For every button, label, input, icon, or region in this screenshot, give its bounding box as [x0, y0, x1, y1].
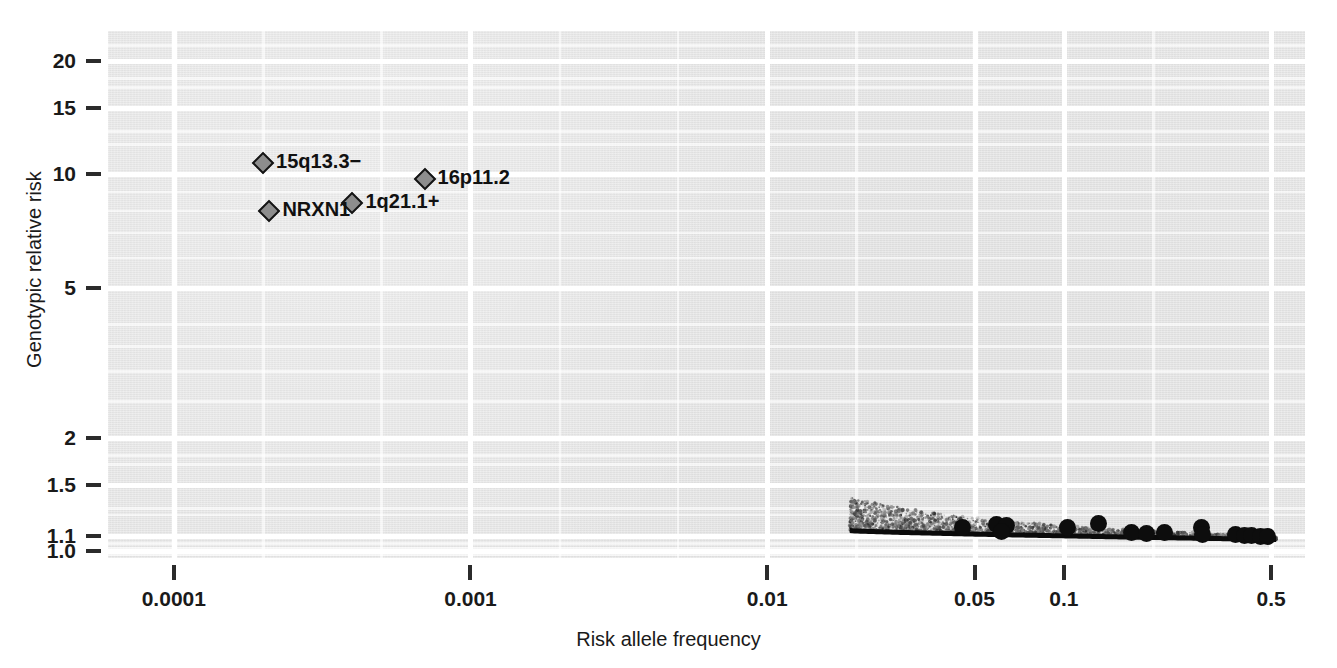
gridline-vertical [468, 31, 473, 558]
gridline-horizontal [108, 86, 1305, 89]
gridline-horizontal [108, 554, 1305, 557]
diamond-marker-icon [252, 152, 275, 175]
x-tick-mark [468, 565, 472, 580]
gridline-horizontal [108, 191, 1305, 194]
gridline-horizontal [108, 59, 1305, 64]
gridline-horizontal [108, 370, 1305, 373]
cnv-point-label: 16p11.2 [438, 167, 510, 187]
y-tick-mark [86, 106, 101, 110]
y-tick-mark [86, 483, 101, 487]
x-tick-label: 0.001 [400, 588, 540, 609]
gridline-vertical [973, 31, 978, 558]
gridline-horizontal [108, 323, 1305, 326]
x-axis-title: Risk allele frequency [0, 628, 1337, 651]
gridline-horizontal [108, 436, 1305, 441]
gridline-horizontal [108, 507, 1305, 510]
gridline-horizontal [108, 542, 1305, 545]
gridline-vertical [1269, 31, 1274, 558]
gwas-dot [1138, 525, 1155, 542]
gridline-horizontal [108, 345, 1305, 348]
gridline-horizontal [108, 286, 1305, 291]
x-tick-label: 0.0001 [104, 588, 244, 609]
y-tick-mark [86, 436, 101, 440]
y-tick-mark [86, 549, 101, 553]
gridline-vertical [1062, 31, 1067, 558]
x-tick-mark [172, 565, 176, 580]
gwas-dot [1090, 515, 1107, 532]
cnv-point-label: 1q21.1+ [365, 191, 439, 211]
gridline-vertical [855, 31, 858, 558]
gridline-horizontal [108, 463, 1305, 466]
gridline-horizontal [108, 130, 1305, 133]
y-axis-title: Genotypic relative risk [23, 60, 46, 480]
gwas-dot [1194, 526, 1211, 543]
x-tick-mark [1062, 565, 1066, 580]
gridline-horizontal [108, 400, 1305, 403]
cnv-point-label: NRXN1 [282, 199, 350, 219]
gridline-horizontal [108, 483, 1305, 488]
gridline-vertical [172, 31, 177, 558]
gridline-vertical [677, 31, 680, 558]
gridline-vertical [559, 31, 562, 558]
gridline-horizontal [108, 514, 1305, 517]
plot-area: 15q13.3−16p11.21q21.1+NRXN1 [108, 31, 1305, 558]
x-tick-label: 0.1 [994, 588, 1134, 609]
y-tick-mark [86, 534, 101, 538]
x-tick-label: 0.5 [1201, 588, 1337, 609]
gwas-dot [1259, 528, 1276, 545]
gridline-vertical [262, 31, 265, 558]
y-tick-mark [86, 286, 101, 290]
figure: 15q13.3−16p11.21q21.1+NRXN1 201510521.51… [0, 0, 1337, 668]
gridline-horizontal [108, 106, 1305, 111]
gridline-horizontal [108, 257, 1305, 260]
gridline-vertical [380, 31, 383, 558]
gridline-horizontal [108, 172, 1305, 177]
gridline-horizontal [108, 44, 1305, 47]
gridline-horizontal [108, 454, 1305, 457]
gridline-horizontal [108, 547, 1305, 550]
x-tick-mark [765, 565, 769, 580]
gridline-horizontal [108, 77, 1305, 80]
y-tick-mark [86, 172, 101, 176]
y-tick-mark [86, 59, 101, 63]
x-tick-mark [973, 565, 977, 580]
y-tick-label: 1.0 [12, 540, 76, 561]
gridline-horizontal [108, 143, 1305, 146]
cnv-point-label: 15q13.3− [276, 151, 361, 171]
gwas-dot [993, 523, 1010, 540]
x-tick-label: 0.01 [697, 588, 837, 609]
gwas-dot [1059, 519, 1076, 536]
gridline-horizontal [108, 232, 1305, 235]
gridline-vertical [1152, 31, 1155, 558]
gridline-vertical [765, 31, 770, 558]
x-tick-mark [1269, 565, 1273, 580]
gwas-dot [954, 519, 971, 536]
gwas-dot [1156, 524, 1173, 541]
